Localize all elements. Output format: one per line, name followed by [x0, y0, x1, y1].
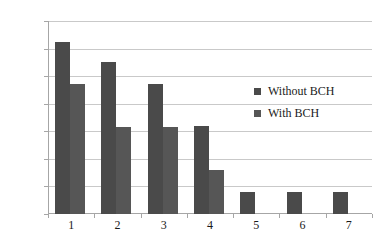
- y-axis-line: [48, 21, 49, 214]
- x-tick-label: 3: [144, 219, 184, 231]
- gridline: [48, 76, 372, 77]
- bar[interactable]: [163, 127, 178, 214]
- legend-label-with-bch: With BCH: [268, 107, 319, 119]
- square-marker-icon: [254, 88, 261, 95]
- x-tick-label: 5: [236, 219, 276, 231]
- bar[interactable]: [194, 126, 209, 214]
- x-tick-label: 2: [97, 219, 137, 231]
- x-tick-mark: [94, 214, 95, 218]
- legend-item-with-bch[interactable]: With BCH: [254, 102, 335, 124]
- bar[interactable]: [148, 84, 163, 214]
- legend-item-without-bch[interactable]: Without BCH: [254, 80, 335, 102]
- x-tick-mark: [233, 214, 234, 218]
- x-tick-mark: [187, 214, 188, 218]
- bar[interactable]: [333, 192, 348, 214]
- bar[interactable]: [55, 42, 70, 214]
- x-tick-mark: [372, 214, 373, 218]
- x-tick-label: 1: [51, 219, 91, 231]
- bar-chart: 0.070.060.050.040.030.020.010 1234567 Wi…: [0, 0, 387, 249]
- gridline: [48, 131, 372, 132]
- x-tick-mark: [326, 214, 327, 218]
- x-tick-label: 4: [190, 219, 230, 231]
- bar[interactable]: [287, 192, 302, 214]
- gridline: [48, 159, 372, 160]
- gridline: [48, 49, 372, 50]
- bar[interactable]: [116, 127, 131, 214]
- x-tick-mark: [141, 214, 142, 218]
- x-tick-label: 6: [283, 219, 323, 231]
- gridline: [48, 21, 372, 22]
- chart-legend: Without BCH With BCH: [254, 80, 335, 124]
- bar[interactable]: [209, 170, 224, 214]
- bar[interactable]: [70, 84, 85, 214]
- bar[interactable]: [101, 62, 116, 214]
- x-tick-mark: [48, 214, 49, 218]
- legend-label-without-bch: Without BCH: [268, 85, 335, 97]
- square-marker-icon: [254, 110, 261, 117]
- bar[interactable]: [240, 192, 255, 214]
- x-tick-label: 7: [329, 219, 369, 231]
- x-tick-mark: [279, 214, 280, 218]
